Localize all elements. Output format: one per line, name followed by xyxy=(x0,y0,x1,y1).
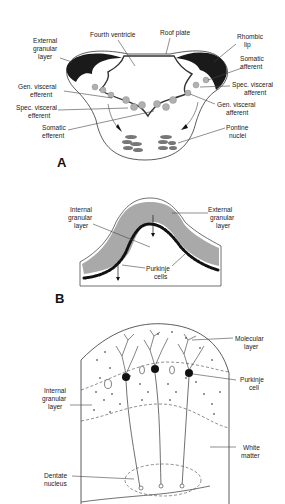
svg-text:layer: layer xyxy=(74,222,89,230)
cerebellum-development-figure: Fourth ventricle Roof plate External gra… xyxy=(0,0,285,504)
panel-c: Molecular layer Purkinje cell Internal g… xyxy=(42,324,264,504)
svg-text:efferent: efferent xyxy=(30,91,52,98)
dentate-nucleus xyxy=(125,464,201,496)
svg-text:layer: layer xyxy=(38,53,53,61)
label-external-granular: External xyxy=(33,37,58,44)
label-spec-visceral-afferent: Spec. visceral xyxy=(232,81,274,89)
label-pontine-nuclei: Pontine xyxy=(226,124,249,131)
svg-text:granular: granular xyxy=(33,45,58,53)
svg-text:cell: cell xyxy=(249,384,259,391)
svg-text:afferent: afferent xyxy=(226,109,248,116)
svg-text:layer: layer xyxy=(48,403,63,411)
label-purkinje-cell: Purkinje xyxy=(240,376,264,384)
svg-text:layer: layer xyxy=(216,222,231,230)
label-gen-visceral-afferent: Gen. visceral xyxy=(217,101,256,108)
svg-text:afferent: afferent xyxy=(244,89,266,96)
panel-b: Internal granular layer External granula… xyxy=(55,198,235,306)
svg-text:afferent: afferent xyxy=(240,63,262,70)
label-external-granular-b: External xyxy=(208,206,233,213)
svg-text:cells: cells xyxy=(154,273,168,280)
label-somatic-afferent: Somatic xyxy=(240,55,265,62)
panel-letter-b: B xyxy=(55,291,64,306)
svg-text:granular: granular xyxy=(210,214,235,222)
purkinje-cells xyxy=(116,330,204,488)
panel-a: Fourth ventricle Roof plate External gra… xyxy=(16,29,274,170)
label-somatic-efferent: Somatic xyxy=(42,124,67,131)
svg-text:efferent: efferent xyxy=(42,132,64,139)
label-spec-visceral-efferent: Spec. visceral xyxy=(16,104,58,112)
svg-text:lip: lip xyxy=(244,41,251,49)
svg-text:efferent: efferent xyxy=(28,112,50,119)
label-dentate-nucleus: Dentate xyxy=(44,472,67,479)
label-gen-visceral-efferent: Gen. visceral xyxy=(18,83,57,90)
svg-text:granular: granular xyxy=(68,214,93,222)
granule-dots xyxy=(93,331,221,415)
label-rhombic-lip: Rhombic xyxy=(237,33,264,40)
label-white-matter: White xyxy=(243,444,260,451)
label-fourth-ventricle: Fourth ventricle xyxy=(90,31,136,38)
label-purkinje-cells-b: Purkinje xyxy=(146,265,170,273)
svg-text:granular: granular xyxy=(42,395,67,403)
svg-text:layer: layer xyxy=(244,343,259,351)
label-internal-granular-b: Internal xyxy=(70,206,93,213)
label-internal-granular-c: Internal xyxy=(44,387,67,394)
golgi-cells xyxy=(105,366,175,389)
label-molecular-layer: Molecular xyxy=(235,335,264,342)
panel-letter-a: A xyxy=(57,155,67,170)
svg-text:nuclei: nuclei xyxy=(229,132,247,139)
white-matter-boundary xyxy=(81,404,229,428)
svg-text:matter: matter xyxy=(241,452,260,459)
svg-text:nucleus: nucleus xyxy=(44,480,67,487)
label-roof-plate: Roof plate xyxy=(160,29,190,37)
cortex-outline xyxy=(81,324,229,504)
